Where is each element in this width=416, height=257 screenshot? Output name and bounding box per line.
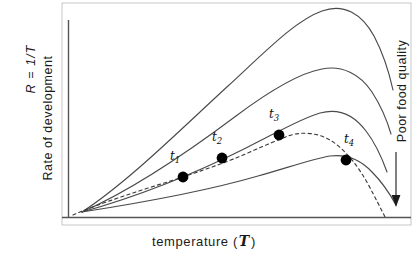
data-point-t2[interactable] <box>217 153 228 164</box>
envelope-curve-dashed <box>73 133 385 217</box>
figure-container: R = 1/T Rate of development temperature … <box>0 0 416 257</box>
data-point-t4[interactable] <box>341 155 352 166</box>
figure-border <box>62 3 411 225</box>
point-label-t4: t4 <box>344 132 354 148</box>
y-axis-formula-label: R = 1/T <box>24 19 38 119</box>
point-label-t2: t2 <box>212 130 222 146</box>
data-point-t1[interactable] <box>178 172 189 183</box>
data-point-t3[interactable] <box>274 130 285 141</box>
y-axis-label: Rate of development <box>41 43 55 193</box>
poor-food-quality-label: Poor food quality <box>395 16 409 166</box>
point-label-t3: t3 <box>269 107 279 123</box>
point-label-t1: t1 <box>170 149 180 165</box>
x-axis-label: temperature (T) <box>152 233 256 249</box>
chart-canvas <box>0 0 416 257</box>
x-axis-label-close: ) <box>251 234 256 249</box>
x-axis-symbol: T <box>238 233 251 249</box>
x-axis-label-text: temperature ( <box>152 234 238 249</box>
